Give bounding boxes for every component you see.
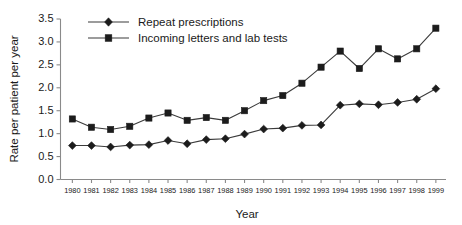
y-tick-label: 3.5 xyxy=(38,12,53,24)
data-point-square xyxy=(69,116,75,122)
legend: Repeat prescriptions Incoming letters an… xyxy=(88,16,288,44)
line-chart: Rate per patient per year Year 0.00.51.0… xyxy=(0,0,462,225)
data-point-square xyxy=(375,46,381,52)
x-tick-label: 1986 xyxy=(179,186,195,195)
x-tick-label: 1990 xyxy=(255,186,271,195)
series-line-0 xyxy=(72,89,436,147)
data-point-square xyxy=(127,123,133,129)
y-tick-label: 1.5 xyxy=(38,104,53,116)
x-tick-label: 1996 xyxy=(370,186,386,195)
legend-label-0: Repeat prescriptions xyxy=(138,16,244,28)
y-tick-label: 1.0 xyxy=(38,127,53,139)
y-axis-title: Rate per patient per year xyxy=(8,35,20,162)
data-point-diamond xyxy=(183,140,191,148)
data-point-diamond xyxy=(432,85,440,93)
data-point-square xyxy=(222,117,228,123)
data-point-square xyxy=(165,110,171,116)
x-tick-label: 1992 xyxy=(294,186,310,195)
x-tick-label: 1984 xyxy=(141,186,157,195)
series-group xyxy=(68,25,439,151)
data-point-diamond xyxy=(68,142,76,150)
x-tick-label: 1998 xyxy=(409,186,425,195)
x-tick-label: 1997 xyxy=(389,186,405,195)
x-tick-label: 1981 xyxy=(83,186,99,195)
y-tick-label: 2.0 xyxy=(38,81,53,93)
x-tick-label: 1985 xyxy=(160,186,176,195)
legend-marker-square xyxy=(105,35,112,42)
data-point-square xyxy=(394,56,400,62)
data-point-square xyxy=(261,98,267,104)
data-point-square xyxy=(184,117,190,123)
series-0 xyxy=(68,85,439,151)
y-tick-label: 2.5 xyxy=(38,58,53,70)
data-point-diamond xyxy=(298,121,306,129)
data-point-diamond xyxy=(413,95,421,103)
x-tick-label: 1987 xyxy=(198,186,214,195)
data-point-square xyxy=(299,80,305,86)
data-point-square xyxy=(241,108,247,114)
data-point-square xyxy=(337,48,343,54)
x-tick-label: 1982 xyxy=(102,186,118,195)
data-point-diamond xyxy=(164,137,172,145)
x-axis-title: Year xyxy=(235,208,258,220)
x-tick-label: 1994 xyxy=(332,186,348,195)
data-point-diamond xyxy=(88,142,96,150)
data-point-diamond xyxy=(222,135,230,143)
legend-label-1: Incoming letters and lab tests xyxy=(138,32,288,44)
data-point-diamond xyxy=(394,99,402,107)
data-point-diamond xyxy=(355,100,363,108)
data-point-diamond xyxy=(202,136,210,144)
data-point-square xyxy=(433,25,439,31)
y-tick-label: 0.0 xyxy=(38,173,53,185)
data-point-square xyxy=(414,46,420,52)
data-point-square xyxy=(356,65,362,71)
x-tick-label: 1993 xyxy=(313,186,329,195)
x-tick-label: 1988 xyxy=(217,186,233,195)
data-point-diamond xyxy=(375,101,383,109)
x-tick-label: 1980 xyxy=(64,186,80,195)
x-tick-label: 1991 xyxy=(275,186,291,195)
data-point-diamond xyxy=(126,141,134,149)
data-point-square xyxy=(280,92,286,98)
data-point-square xyxy=(203,114,209,120)
x-axis-ticks: 1980198119821983198419851986198719881989… xyxy=(64,180,444,195)
y-tick-label: 0.5 xyxy=(38,150,53,162)
data-point-diamond xyxy=(107,143,115,151)
data-point-diamond xyxy=(241,130,249,138)
legend-marker-diamond xyxy=(105,18,113,26)
x-tick-label: 1995 xyxy=(351,186,367,195)
data-point-diamond xyxy=(145,141,153,149)
data-point-square xyxy=(88,124,94,130)
chart-figure: Rate per patient per year Year 0.00.51.0… xyxy=(0,0,462,225)
data-point-diamond xyxy=(279,124,287,132)
data-point-diamond xyxy=(260,125,268,133)
x-tick-label: 1999 xyxy=(428,186,444,195)
data-point-square xyxy=(318,64,324,70)
y-axis-ticks: 0.00.51.01.52.02.53.03.5 xyxy=(38,12,60,185)
x-tick-label: 1989 xyxy=(236,186,252,195)
y-tick-label: 3.0 xyxy=(38,35,53,47)
data-point-square xyxy=(108,126,114,132)
data-point-square xyxy=(146,115,152,121)
x-tick-label: 1983 xyxy=(122,186,138,195)
